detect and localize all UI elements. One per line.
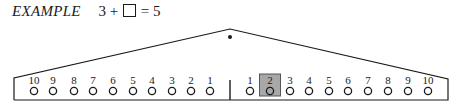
peg-hole-icon: [206, 87, 213, 94]
number-balance-diagram: 10987654321 12345678910: [0, 0, 460, 103]
peg-label: 9: [405, 74, 411, 86]
peg-label: 1: [207, 74, 213, 86]
peg-label: 4: [306, 74, 312, 86]
peg-left-3: 3: [168, 74, 175, 95]
peg-label: 2: [188, 74, 194, 86]
peg-label: 6: [110, 74, 116, 86]
peg-left-2: 2: [187, 74, 194, 95]
peg-label: 1: [247, 74, 253, 86]
peg-label: 2: [267, 74, 273, 86]
peg-hole-icon: [404, 87, 411, 94]
peg-right-7: 7: [364, 74, 371, 95]
peg-label: 4: [149, 74, 155, 86]
right-pegs: 12345678910: [246, 74, 434, 96]
peg-right-1: 1: [246, 74, 253, 95]
peg-right-5: 5: [325, 74, 332, 95]
peg-hole-icon: [30, 87, 37, 94]
pivot-dot: [228, 35, 232, 39]
peg-label: 5: [130, 74, 136, 86]
peg-hole-icon: [89, 87, 96, 94]
peg-label: 7: [365, 74, 371, 86]
peg-right-3: 3: [286, 74, 293, 95]
peg-hole-icon: [364, 87, 371, 94]
peg-hole-icon: [148, 87, 155, 94]
balance-beam-outline: [14, 29, 448, 100]
peg-hole-icon: [305, 87, 312, 94]
peg-left-4: 4: [148, 74, 155, 95]
peg-hole-icon: [325, 87, 332, 94]
peg-label: 8: [71, 74, 77, 86]
peg-label: 7: [90, 74, 96, 86]
peg-label: 10: [423, 74, 435, 86]
peg-label: 8: [385, 74, 391, 86]
peg-left-6: 6: [109, 74, 116, 95]
peg-hole-icon: [246, 87, 253, 94]
peg-hole-icon: [286, 87, 293, 94]
peg-left-5: 5: [129, 74, 136, 95]
peg-right-8: 8: [384, 74, 391, 95]
peg-hole-icon: [70, 87, 77, 94]
peg-hole-icon: [344, 87, 351, 94]
peg-right-10: 10: [423, 74, 435, 95]
peg-label: 10: [29, 74, 41, 86]
peg-left-1: 1: [206, 74, 213, 95]
peg-left-10: 10: [29, 74, 41, 95]
peg-left-7: 7: [89, 74, 96, 95]
peg-left-9: 9: [49, 74, 56, 95]
peg-right-2: 2: [260, 74, 281, 96]
peg-label: 5: [326, 74, 332, 86]
peg-hole-icon: [109, 87, 116, 94]
left-pegs: 10987654321: [29, 74, 214, 95]
peg-hole-icon: [129, 87, 136, 94]
peg-label: 3: [287, 74, 293, 86]
peg-label: 9: [50, 74, 56, 86]
peg-hole-icon: [49, 87, 56, 94]
peg-right-4: 4: [305, 74, 312, 95]
peg-hole-icon: [187, 87, 194, 94]
peg-hole-icon: [168, 87, 175, 94]
peg-right-6: 6: [344, 74, 351, 95]
peg-label: 6: [345, 74, 351, 86]
peg-label: 3: [169, 74, 175, 86]
peg-left-8: 8: [70, 74, 77, 95]
peg-hole-icon: [424, 87, 431, 94]
peg-hole-icon: [384, 87, 391, 94]
peg-right-9: 9: [404, 74, 411, 95]
